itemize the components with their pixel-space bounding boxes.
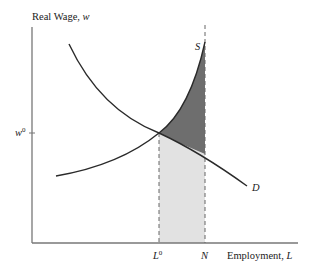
demand-curve bbox=[69, 44, 247, 186]
demand-label: D bbox=[251, 182, 260, 193]
w0-label: w0 bbox=[15, 126, 26, 138]
L0-label: L0 bbox=[152, 249, 163, 261]
x-axis-label: Employment, L bbox=[227, 250, 293, 261]
supply-label: S bbox=[195, 41, 201, 52]
N-label: N bbox=[200, 250, 209, 261]
y-axis-label: Real Wage, w bbox=[32, 11, 90, 22]
labor-market-diagram: Real Wage, w w0 S D L0 N Employment, L bbox=[0, 0, 313, 268]
